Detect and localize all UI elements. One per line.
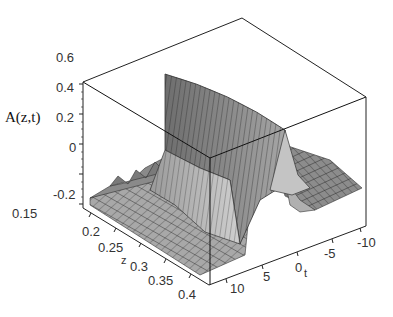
x-tick-5: 0.4 xyxy=(178,288,196,301)
z-tick-0: 0.6 xyxy=(56,51,74,64)
z-tick-3: 0 xyxy=(69,141,76,154)
z-axis-ticks xyxy=(79,84,83,204)
x-tick-2: 0.25 xyxy=(98,241,123,254)
z-tick-2: 0.2 xyxy=(56,111,74,124)
y-tick-2: 0 xyxy=(295,261,302,274)
x-tick-4: 0.35 xyxy=(148,274,173,287)
y-tick-0: 10 xyxy=(230,282,244,295)
surface-plot xyxy=(0,0,393,317)
x-tick-0: 0.15 xyxy=(12,207,37,220)
y-tick-4: -10 xyxy=(357,236,376,249)
x-tick-3: 0.3 xyxy=(130,260,148,273)
y-tick-3: -5 xyxy=(324,247,336,260)
x-axis-title: z xyxy=(121,255,127,266)
plot-box-back xyxy=(83,18,366,97)
y-tick-1: 5 xyxy=(263,270,270,283)
z-tick-4: -0.2 xyxy=(53,188,75,201)
z-tick-1: 0.4 xyxy=(56,81,74,94)
x-tick-1: 0.2 xyxy=(82,225,100,238)
y-axis-title: t xyxy=(304,268,307,279)
vertical-axis-title: A(z,t) xyxy=(5,110,40,125)
